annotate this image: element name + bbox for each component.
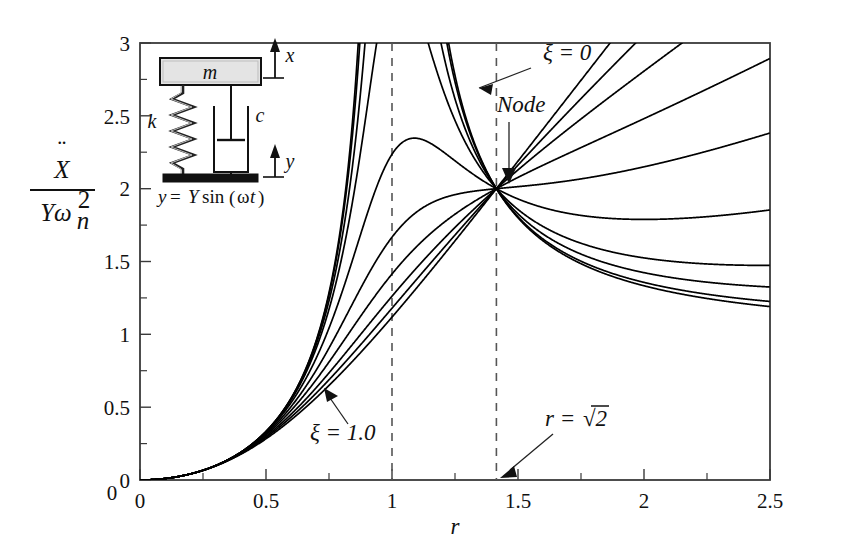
eq-t: t [250,186,256,207]
x-axis-title: r [451,514,461,539]
annotation-node: Node [496,92,546,184]
arrowhead [500,466,517,478]
mass-label: m [203,61,217,83]
y-tick-label: 3 [120,32,131,56]
y-tick-label: 0 [120,469,131,493]
eq-close-paren: ) [258,187,264,209]
y-tick-label: 2.5 [104,105,130,129]
damper-element [214,85,248,177]
annotation-zeta-one-label: ξ = 1.0 [310,420,376,445]
x-tick-label: 2.5 [757,489,783,513]
eq-open-paren: ( [229,187,235,209]
x-tick-label: 1.5 [505,489,531,513]
x-motion-arrow [263,38,284,78]
y-motion-label: y [284,150,295,173]
y-tick-label: 1.5 [104,250,130,274]
x-motion-label: x [285,44,295,66]
x-tick-label: 1 [387,489,398,513]
dashed-reference-lines [392,43,496,480]
damper-label: c [256,104,265,126]
annotation-node-label: Node [496,92,546,117]
schematic-diagram: m k c x [148,38,295,209]
eq-omega: ω [237,186,250,207]
spring-label: k [148,110,158,132]
y-axis-denominator-exponent: 2 [78,186,91,213]
eq-lhs: y [156,186,167,207]
y-motion-arrow [263,144,284,177]
eq-amplitude: Y [188,186,201,207]
y-axis-title: X ¨ Yω n 2 [30,136,95,234]
annotation-r-sqrt2: r = √2 [500,406,609,478]
annotation-r-sqrt2-radical: √2 [583,406,607,431]
y-axis-denominator: Yω [40,199,72,226]
origin-label: 0 [107,481,118,505]
eq-equals: = [170,186,181,207]
eq-func: sin [202,186,225,207]
y-tick-label: 1 [120,323,131,347]
annotation-zeta-one: ξ = 1.0 [310,388,376,445]
x-axis-ticks [140,469,770,480]
x-axis-tick-labels: 0 0.5 1 1.5 2 2.5 0 [107,481,783,513]
base-block [163,174,258,182]
base-excitation-equation: y = Y sin ( ω t ) [156,186,264,209]
x-tick-label: 2 [639,489,650,513]
y-axis-tick-labels: 3 2.5 2 1.5 1 0.5 0 [104,32,130,493]
x-tick-label: 0.5 [253,489,279,513]
y-tick-label: 0.5 [104,396,130,420]
y-axis-ticks [140,43,151,480]
spring-element [171,85,194,176]
x-tick-label: 0 [135,489,146,513]
annotation-r-sqrt2-label: r = [545,406,575,431]
annotation-zeta-zero-label: ξ = 0 [543,40,592,65]
y-axis-ddots: ¨ [58,136,66,163]
y-tick-label: 2 [120,177,131,201]
figure-container: 3 2.5 2 1.5 1 0.5 0 0 0.5 1 1.5 [0,0,842,540]
transmissibility-curve [140,133,770,480]
chart-svg: 3 2.5 2 1.5 1 0.5 0 0 0.5 1 1.5 [0,0,842,540]
